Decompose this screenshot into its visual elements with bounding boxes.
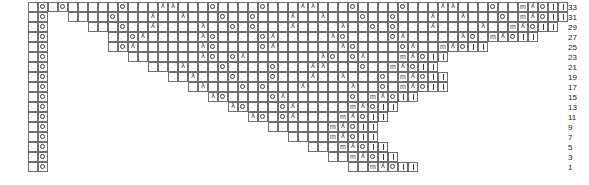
left-edge-yarnover-col xyxy=(38,22,48,32)
empty-icon xyxy=(329,83,337,91)
empty-icon xyxy=(309,83,317,91)
empty-cell xyxy=(328,82,338,92)
empty-icon xyxy=(369,13,377,21)
empty-icon xyxy=(269,83,277,91)
empty-icon xyxy=(319,33,327,41)
empty-icon xyxy=(279,23,287,31)
decrease-left-cell xyxy=(528,2,538,12)
left-edge-blank-col xyxy=(28,132,38,142)
empty-cell xyxy=(328,2,338,12)
empty-icon xyxy=(369,33,377,41)
empty-icon xyxy=(119,13,127,21)
empty-cell xyxy=(308,92,318,102)
empty-icon xyxy=(139,3,147,11)
empty-cell xyxy=(308,52,318,62)
empty-icon xyxy=(339,63,347,71)
yarn-over-icon xyxy=(249,13,257,21)
empty-icon xyxy=(349,13,357,21)
empty-cell xyxy=(29,13,37,21)
yarn-over-cell xyxy=(388,92,398,102)
yarn-over-icon xyxy=(349,123,357,131)
empty-icon xyxy=(69,13,77,21)
decrease-right-icon xyxy=(319,63,327,71)
knit-icon xyxy=(429,63,437,71)
empty-cell xyxy=(48,2,58,12)
empty-cell xyxy=(258,62,268,72)
empty-icon xyxy=(229,43,237,51)
empty-icon xyxy=(249,53,257,61)
left-edge-yarnover-col xyxy=(38,72,48,82)
empty-cell xyxy=(288,62,298,72)
empty-cell xyxy=(258,102,268,112)
empty-icon xyxy=(219,83,227,91)
empty-cell xyxy=(188,52,198,62)
empty-cell xyxy=(288,82,298,92)
decrease-left-cell xyxy=(498,32,508,42)
yarn-over-icon xyxy=(379,73,387,81)
decrease-left-icon xyxy=(529,13,537,21)
yarn-over-cell xyxy=(39,83,47,91)
knit-icon xyxy=(429,83,437,91)
left-edge-yarnover-col xyxy=(38,52,48,62)
empty-icon xyxy=(179,53,187,61)
yarn-over-cell xyxy=(388,162,398,172)
empty-icon xyxy=(499,23,507,31)
empty-cell xyxy=(228,2,238,12)
row-number-label: 1 xyxy=(568,163,572,173)
empty-cell xyxy=(418,12,428,22)
empty-icon xyxy=(79,13,87,21)
empty-icon xyxy=(299,13,307,21)
empty-icon xyxy=(149,33,157,41)
empty-icon xyxy=(289,123,297,131)
empty-icon xyxy=(309,53,317,61)
knit-cell xyxy=(558,2,568,12)
left-edge-yarnover-col xyxy=(38,162,48,172)
empty-icon xyxy=(289,33,297,41)
empty-cell xyxy=(438,22,448,32)
empty-cell xyxy=(428,32,438,42)
empty-cell xyxy=(418,32,428,42)
empty-icon xyxy=(329,153,337,161)
yarn-over-icon xyxy=(229,23,237,31)
knit-cell xyxy=(358,132,368,142)
empty-cell xyxy=(248,32,258,42)
make-one-cell xyxy=(338,142,348,152)
empty-icon xyxy=(249,3,257,11)
empty-cell xyxy=(338,62,348,72)
empty-icon xyxy=(509,3,517,11)
decrease-left-icon xyxy=(409,53,417,61)
yarn-over-cell xyxy=(328,52,338,62)
yarn-over-cell xyxy=(39,23,47,31)
knit-cell xyxy=(378,112,388,122)
empty-cell xyxy=(448,32,458,42)
empty-cell xyxy=(268,22,278,32)
decrease-right-icon xyxy=(179,13,187,21)
empty-icon xyxy=(139,13,147,21)
decrease-left-icon xyxy=(269,33,277,41)
decrease-left-icon xyxy=(299,83,307,91)
empty-cell xyxy=(258,52,268,62)
empty-cell xyxy=(338,152,348,162)
empty-icon xyxy=(179,3,187,11)
empty-cell xyxy=(208,72,218,82)
empty-cell xyxy=(328,102,338,112)
empty-icon xyxy=(449,33,457,41)
decrease-left-cell xyxy=(408,42,418,52)
knit-icon xyxy=(479,43,487,51)
decrease-right-cell xyxy=(198,42,208,52)
yarn-over-cell xyxy=(39,103,47,111)
row-number-label: 29 xyxy=(568,23,577,33)
decrease-left-icon xyxy=(159,3,167,11)
empty-cell xyxy=(318,142,328,152)
yarn-over-cell xyxy=(228,52,238,62)
empty-cell xyxy=(258,22,268,32)
decrease-right-cell xyxy=(338,72,348,82)
yarn-over-icon xyxy=(389,93,397,101)
empty-icon xyxy=(109,43,117,51)
empty-icon xyxy=(79,3,87,11)
knit-icon xyxy=(439,53,447,61)
empty-cell xyxy=(248,52,258,62)
empty-cell xyxy=(148,42,158,52)
empty-cell xyxy=(218,2,228,12)
knit-cell xyxy=(368,122,378,132)
